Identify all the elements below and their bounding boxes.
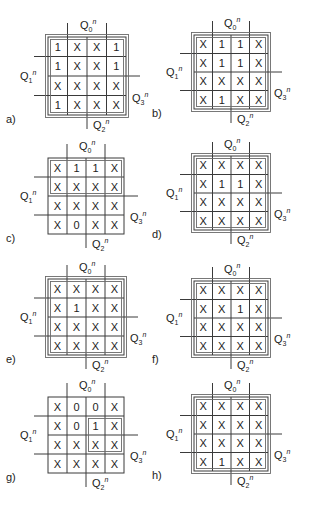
kmap-cell: 1 [219,38,225,50]
panel-label: b) [152,107,162,119]
kmap-cell: X [73,321,81,333]
kmap-cell: X [111,321,119,333]
var-label-q0: Q0n [224,16,240,31]
kmap-cell: X [92,458,100,470]
panel-label: a) [6,113,16,125]
var-label-q3: Q3n [274,448,290,463]
kmap-cell: X [74,41,82,53]
kmap-cell: X [74,80,82,92]
kmap-cell: X [200,303,208,315]
kmap-cell: X [218,215,226,227]
var-label-q3: Q3n [274,332,290,347]
var-label-q2: Q2n [237,358,253,373]
kmap-cell: 0 [73,401,79,413]
var-label-q1: Q1n [166,311,182,326]
kmap-cell: X [200,38,208,50]
kmap-cell: X [54,80,62,92]
kmap-g: X00XX01XXXXXXXXXQ0nQ1nQ3nQ2ng) [6,378,146,491]
kmap-cell: X [200,75,208,87]
var-label-q2: Q2n [92,476,108,491]
kmap-cell: X [255,456,263,468]
kmap-cell: 1 [92,420,98,432]
kmap-cell: X [237,215,245,227]
kmap-cell: X [237,419,245,431]
kmap-cell: X [73,340,81,352]
kmap-cell: X [54,439,62,451]
kmap-cell: X [200,284,208,296]
kmap-cell: X [93,99,101,111]
kmap-cell: X [255,303,263,315]
kmap-cell: 0 [92,401,98,413]
kmap-cell: 1 [55,41,61,53]
kmap-cell: X [111,200,119,212]
kmap-cell: X [255,284,263,296]
kmap-cell: 1 [219,456,225,468]
var-label-q0: Q0n [79,260,95,275]
panel-label: c) [6,232,15,244]
kmap-cell: X [200,419,208,431]
kmap-cell: X [255,437,263,449]
panel-label: f) [152,353,159,365]
kmap-cell: X [92,200,100,212]
var-label-q3: Q3n [274,86,290,101]
var-label-q1: Q1n [166,427,182,442]
kmap-cell: 1 [113,60,119,72]
var-label-q2: Q2n [92,237,108,252]
kmap-cell: X [73,439,81,451]
kmap-cell: X [218,284,226,296]
var-label-q1: Q1n [20,69,36,84]
kmap-cell: X [111,439,119,451]
kmap-cell: 1 [219,178,225,190]
kmap-cell: X [200,196,208,208]
var-label-q0: Q0n [80,18,96,33]
kmap-cell: X [73,181,81,193]
kmap-cell: X [73,458,81,470]
kmap-cell: X [200,178,208,190]
kmap-cell: X [218,196,226,208]
kmap-cell: X [92,219,100,231]
kmap-cell: X [255,57,263,69]
kmap-cell: X [237,437,245,449]
kmap-cell: X [111,420,119,432]
kmap-h: XXXXXXXXXXXXX1XXQ0nQ1nQ3nQ2nh) [152,378,290,489]
kmap-cell: X [255,419,263,431]
kmap-cell: X [73,283,81,295]
var-label-q2: Q2n [237,233,253,248]
kmap-cell: X [93,41,101,53]
var-label-q2: Q2n [93,118,109,133]
kmap-cell: X [255,75,263,87]
kmap-cell: X [218,340,226,352]
kmap-cell: 1 [55,99,61,111]
kmap-cell: X [218,437,226,449]
kmap-cell: X [237,196,245,208]
kmap-cell: X [218,75,226,87]
kmap-cell: X [255,340,263,352]
kmap-cell: X [255,196,263,208]
kmap-cell: 1 [73,162,79,174]
kmap-cell: X [54,420,62,432]
kmap-cell: X [218,419,226,431]
kmap-cell: X [200,437,208,449]
kmap-cell: X [73,200,81,212]
var-label-q1: Q1n [20,428,36,443]
kmap-cell: 1 [237,57,243,69]
kmap-cell: X [237,400,245,412]
kmap-cell: X [92,302,100,314]
kmap-cell: X [54,283,62,295]
kmap-cell: X [113,80,121,92]
kmap-cell: X [111,162,119,174]
var-label-q1: Q1n [20,189,36,204]
var-label-q2: Q2n [237,112,253,127]
kmap-cell: X [111,401,119,413]
var-label-q3: Q3n [130,331,146,346]
karnaugh-maps-figure: 1XX11XX1XXXX1XXXQ0nQ1nQ3nQ2na)X11XX11XXX… [0,0,320,508]
kmap-cell: X [237,456,245,468]
kmap-cell: 1 [237,178,243,190]
var-label-q1: Q1n [20,310,36,325]
kmap-cell: X [200,57,208,69]
panel-label: e) [6,353,16,365]
var-label-q1: Q1n [166,186,182,201]
kmap-cell: X [111,219,119,231]
kmap-cell: 1 [219,94,225,106]
kmap-cell: X [54,200,62,212]
